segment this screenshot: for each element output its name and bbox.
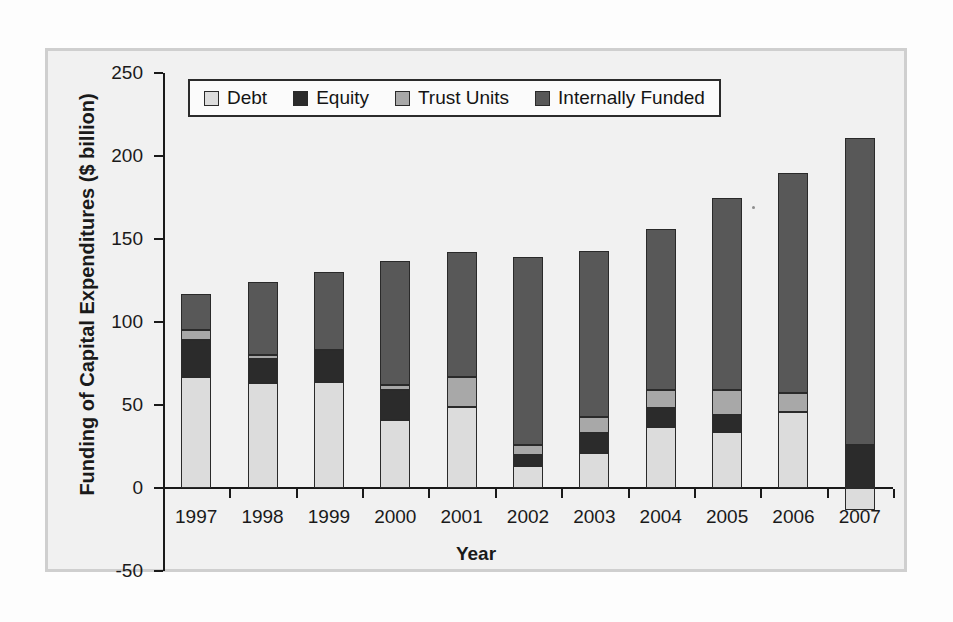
bar-segment-equity — [579, 433, 609, 453]
bar-segment-internally-funded — [778, 173, 808, 394]
bar-segment-equity — [845, 445, 875, 488]
bar-segment-internally-funded — [447, 252, 477, 377]
x-axis-tick-label: 2001 — [440, 506, 482, 528]
chart-plot-area: -500501001502002501997199819992000200120… — [48, 51, 904, 569]
legend-item-trust-units[interactable]: Trust Units — [395, 87, 509, 109]
bar-1997[interactable] — [181, 51, 211, 571]
x-axis-tick — [694, 489, 696, 498]
bar-2003[interactable] — [579, 51, 609, 571]
bar-segment-trust-units — [778, 393, 808, 411]
x-axis-tick-label: 2005 — [706, 506, 748, 528]
y-axis-tick — [154, 72, 163, 74]
bar-segment-debt — [579, 453, 609, 488]
bar-segment-internally-funded — [181, 294, 211, 331]
bar-segment-equity — [712, 415, 742, 432]
bar-2005[interactable] — [712, 51, 742, 571]
bar-segment-debt — [181, 377, 211, 488]
y-axis-tick — [154, 321, 163, 323]
bar-segment-trust-units — [248, 355, 278, 358]
bar-segment-trust-units — [646, 390, 676, 408]
x-axis-tick-label: 2000 — [374, 506, 416, 528]
x-axis-tick — [893, 489, 895, 498]
x-axis-tick — [296, 489, 298, 498]
legend-item-debt[interactable]: Debt — [204, 87, 267, 109]
bar-2001[interactable] — [447, 51, 477, 571]
bar-segment-trust-units — [447, 377, 477, 407]
bar-segment-internally-funded — [712, 198, 742, 391]
legend-label: Internally Funded — [558, 87, 705, 109]
bar-segment-internally-funded — [314, 272, 344, 350]
x-axis-tick-label: 2003 — [573, 506, 615, 528]
legend-swatch-icon — [204, 91, 219, 106]
bar-segment-internally-funded — [845, 138, 875, 445]
bar-segment-equity — [314, 350, 344, 382]
bar-segment-equity — [513, 455, 543, 467]
bar-segment-debt — [712, 432, 742, 488]
figure-frame: -500501001502002501997199819992000200120… — [45, 48, 907, 572]
bar-segment-trust-units — [712, 390, 742, 415]
legend-item-equity[interactable]: Equity — [293, 87, 369, 109]
bar-segment-debt — [380, 420, 410, 488]
y-axis-tick — [154, 487, 163, 489]
x-axis-tick-label: 2004 — [640, 506, 682, 528]
legend-item-internally-funded[interactable]: Internally Funded — [535, 87, 705, 109]
bar-segment-internally-funded — [248, 282, 278, 355]
bar-segment-trust-units — [579, 417, 609, 434]
y-axis-title: Funding of Capital Expenditures ($ billi… — [76, 60, 99, 530]
x-axis-tick — [628, 489, 630, 498]
bar-segment-debt — [778, 412, 808, 488]
chart-legend: DebtEquityTrust UnitsInternally Funded — [188, 79, 721, 117]
bar-segment-trust-units — [380, 385, 410, 390]
x-axis-tick — [229, 489, 231, 498]
legend-swatch-icon — [293, 91, 308, 106]
scan-page: -500501001502002501997199819992000200120… — [0, 0, 953, 622]
y-axis-tick — [154, 570, 163, 572]
bar-segment-internally-funded — [380, 261, 410, 386]
x-axis-tick — [362, 489, 364, 498]
bar-segment-trust-units — [181, 330, 211, 340]
bar-segment-equity — [181, 340, 211, 377]
bar-segment-debt — [513, 466, 543, 488]
x-axis-tick-label: 1998 — [241, 506, 283, 528]
bar-2006[interactable] — [778, 51, 808, 571]
x-axis-tick — [428, 489, 430, 498]
y-axis-tick — [154, 155, 163, 157]
bar-1998[interactable] — [248, 51, 278, 571]
scan-speck — [752, 206, 755, 209]
y-axis-tick — [154, 404, 163, 406]
bar-segment-equity — [248, 359, 278, 384]
bar-segment-trust-units — [513, 445, 543, 455]
x-axis-tick — [760, 489, 762, 498]
legend-label: Debt — [227, 87, 267, 109]
x-axis-tick-label: 1997 — [175, 506, 217, 528]
bar-segment-debt — [447, 407, 477, 488]
bar-2004[interactable] — [646, 51, 676, 571]
legend-swatch-icon — [395, 91, 410, 106]
legend-label: Equity — [316, 87, 369, 109]
legend-swatch-icon — [535, 91, 550, 106]
x-axis-tick-label: 2007 — [839, 506, 881, 528]
bar-1999[interactable] — [314, 51, 344, 571]
bar-segment-internally-funded — [646, 229, 676, 390]
x-axis-tick — [827, 489, 829, 498]
bar-segment-internally-funded — [579, 251, 609, 417]
x-axis-tick — [561, 489, 563, 498]
x-axis-tick-label: 2002 — [507, 506, 549, 528]
bar-2002[interactable] — [513, 51, 543, 571]
legend-label: Trust Units — [418, 87, 509, 109]
x-axis-tick — [495, 489, 497, 498]
bar-segment-debt — [248, 383, 278, 488]
x-axis-tick-label: 1999 — [308, 506, 350, 528]
y-axis-tick — [154, 238, 163, 240]
x-axis-tick-label: 2006 — [772, 506, 814, 528]
bar-2007[interactable] — [845, 51, 875, 571]
x-axis-tick — [163, 489, 165, 498]
bar-segment-debt — [314, 382, 344, 488]
bar-2000[interactable] — [380, 51, 410, 571]
x-axis-title: Year — [48, 543, 904, 565]
bar-segment-debt — [646, 427, 676, 488]
bar-segment-equity — [646, 408, 676, 426]
bar-segment-internally-funded — [513, 257, 543, 445]
bar-segment-equity — [380, 390, 410, 420]
